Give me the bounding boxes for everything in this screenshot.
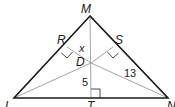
label-R: R <box>57 33 66 47</box>
label-5: 5 <box>82 76 88 88</box>
triangle-diagram: M R S D x 5 13 L T N <box>0 0 175 107</box>
label-N: N <box>167 99 175 107</box>
inner-segments <box>14 16 168 98</box>
label-S: S <box>115 33 123 47</box>
label-x: x <box>78 42 85 54</box>
label-T: T <box>87 99 96 107</box>
label-13: 13 <box>124 67 136 79</box>
label-L: L <box>5 99 12 107</box>
segment-MT <box>90 16 91 98</box>
label-D: D <box>76 55 85 69</box>
right-angle-S <box>108 52 119 58</box>
right-angle-marks <box>62 52 119 98</box>
label-M: M <box>81 2 91 16</box>
right-angle-T <box>91 89 100 98</box>
right-angle-R <box>62 52 73 58</box>
